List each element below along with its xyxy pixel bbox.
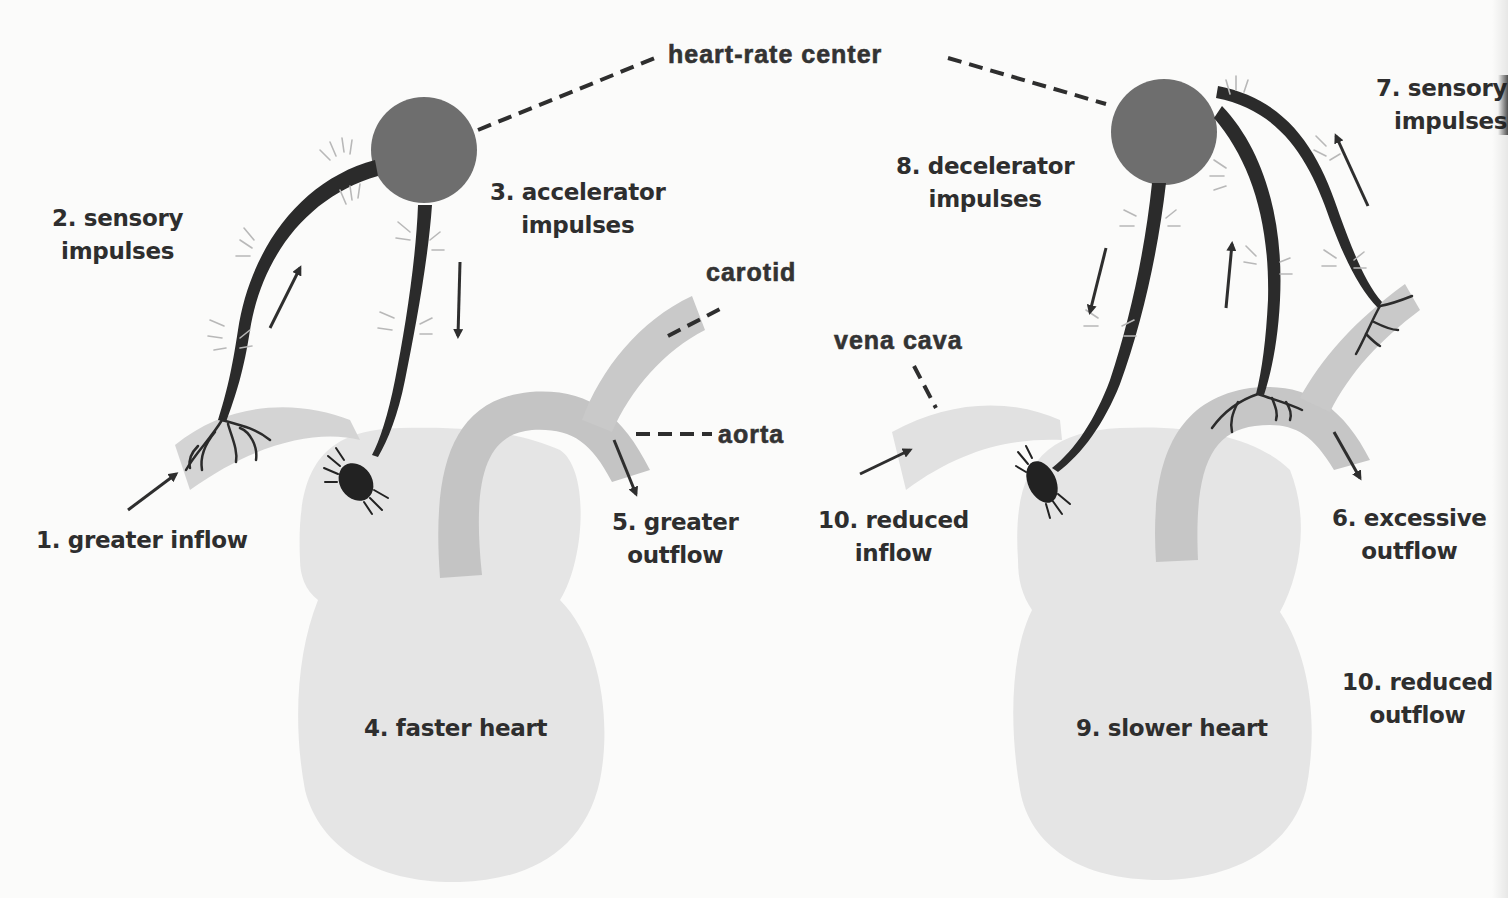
label-decelerator-impulses: 8. decelerator impulses (896, 150, 1074, 216)
label-slower-heart: 9. slower heart (1076, 712, 1268, 745)
heart-rate-center-title: heart-rate center (668, 38, 882, 71)
right-heart-rate-center (1111, 79, 1217, 185)
label-greater-outflow: 5. greater outflow (612, 506, 739, 572)
greater-inflow-arrow (128, 474, 176, 510)
label-vena-cava: vena cava (834, 324, 963, 357)
label-carotid: carotid (706, 256, 796, 289)
left-carotid (582, 296, 705, 432)
right-aortic-sensory-nerve (1214, 106, 1281, 395)
label-aorta: aorta (718, 418, 784, 451)
decelerator-down-arrow (1090, 248, 1106, 312)
label-sensory-impulses-left: 2. sensory impulses (52, 202, 183, 268)
sensory-up-arrow (270, 268, 300, 328)
accelerator-down-arrow (458, 262, 460, 336)
label-reduced-inflow: 10. reduced inflow (818, 504, 969, 570)
carotid-sensory-up-arrow (1336, 136, 1368, 206)
aortic-sensory-up-arrow (1226, 244, 1232, 308)
vena-cava-leader (914, 366, 936, 408)
center-leader-left (478, 58, 655, 130)
label-excessive-outflow: 6. excessive outflow (1332, 502, 1487, 568)
label-sensory-impulses-right: 7. sensory impulses (1376, 72, 1507, 138)
label-accelerator-impulses: 3. accelerator impulses (490, 176, 665, 242)
label-greater-inflow: 1. greater inflow (36, 524, 248, 557)
label-reduced-outflow: 10. reduced outflow (1342, 666, 1493, 732)
left-leader-lines (478, 58, 722, 434)
left-accelerator-nerve (372, 205, 432, 457)
left-heart-rate-center (371, 97, 477, 203)
center-leader-right (948, 58, 1106, 104)
page-edge-dark (1498, 75, 1508, 135)
right-carotid-sensory-nerve (1216, 86, 1382, 308)
label-faster-heart: 4. faster heart (364, 712, 547, 745)
diagram-canvas: heart-rate center 1. greater inflow 2. s… (0, 0, 1508, 898)
left-sensory-nerve (218, 160, 378, 422)
